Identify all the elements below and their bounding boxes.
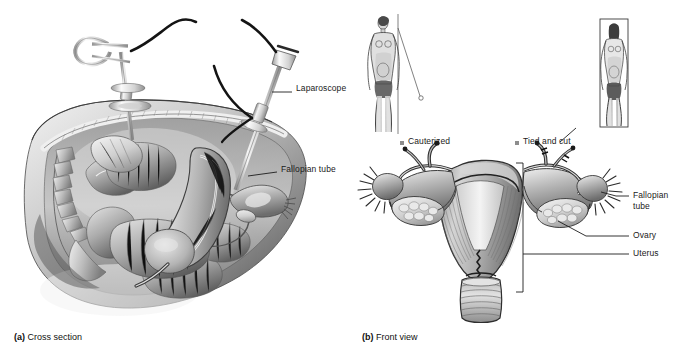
label-fallopian-tube-front-line2: tube [633, 201, 650, 211]
legend-label-tied-and-cut: Tied and cut [523, 136, 571, 146]
body-figure-left [368, 14, 423, 134]
panel-b-front-view [358, 14, 629, 323]
illustration-canvas [0, 0, 679, 364]
label-uterus: Uterus [633, 248, 659, 258]
legend-swatch-cauterized [400, 141, 404, 145]
label-ovary: Ovary [633, 230, 656, 240]
legend-label-cauterized: Cauterized [408, 136, 450, 146]
fallopian-tube-left-cauterized [358, 140, 456, 225]
caption-panel-a-text: Cross section [25, 332, 82, 342]
label-fallopian-tube-front-line1: Fallopian [633, 190, 668, 200]
fallopian-tube-right-tied-and-cut [522, 141, 622, 228]
caption-panel-b-marker: (b) [362, 332, 374, 342]
caption-panel-a-marker: (a) [14, 332, 25, 342]
panel-a-cross-section [24, 20, 306, 316]
body-figure-right [600, 19, 628, 127]
legend-swatch-tied-and-cut [515, 141, 519, 145]
label-laparoscope: Laparoscope [296, 83, 346, 93]
caption-panel-a: (a) Cross section [14, 332, 82, 342]
label-fallopian-tube-cross-section: Fallopian tube [281, 164, 336, 174]
caption-panel-b-text: Front view [374, 332, 418, 342]
bladder [144, 229, 194, 273]
caption-panel-b: (b) Front view [362, 332, 418, 342]
tubal-ligation-figure: Laparoscope Fallopian tube Cauterized Ti… [0, 0, 679, 364]
